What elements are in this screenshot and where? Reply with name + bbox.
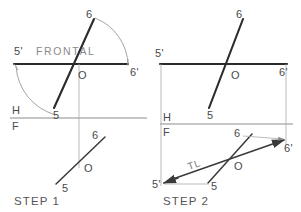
drawing-canvas: FRONTAL 5' 6' 6 5 O H F 6 O 5 STEP 1 <box>0 0 301 212</box>
step-1-caption: STEP 1 <box>14 195 60 207</box>
label-5-frontal-step1: 5 <box>62 182 69 194</box>
technical-drawing-svg: FRONTAL 5' 6' 6 5 O H F 6 O 5 STEP 1 <box>0 0 301 212</box>
label-5prime-frontal-step2: 5' <box>152 178 161 190</box>
step-2-caption: STEP 2 <box>163 195 209 207</box>
label-6-frontal-step1: 6 <box>92 129 99 141</box>
label-O-horizontal-step2: O <box>231 69 240 81</box>
label-6-frontal-step2: 6 <box>234 127 241 139</box>
label-5prime-step2: 5' <box>155 47 164 59</box>
label-O-frontal-step2: O <box>234 160 243 172</box>
step-1-group: FRONTAL 5' 6' 6 5 O H F 6 O 5 STEP 1 <box>10 8 147 207</box>
label-5prime-step1: 5' <box>14 45 23 57</box>
rotation-arc-5-step1 <box>16 66 56 115</box>
label-6prime-top-step2: 6' <box>279 66 288 78</box>
label-6prime-frontal-step2: 6' <box>284 142 293 154</box>
label-6prime-step1: 6' <box>130 66 139 78</box>
line-5-6-frontal-view-step1 <box>56 137 105 184</box>
label-5-frontal-step2: 5 <box>211 180 218 192</box>
label-O-horizontal-step1: O <box>78 69 87 81</box>
label-O-frontal-step1: O <box>84 162 93 174</box>
label-H-step1: H <box>12 104 20 116</box>
label-F-step2: F <box>163 126 170 138</box>
label-F-step1: F <box>12 120 19 132</box>
true-length-arrow-left-step2 <box>164 178 178 183</box>
label-6-top-step2: 6 <box>236 8 243 20</box>
label-5-horizontal-step1: 5 <box>53 109 60 121</box>
step-2-group: 5' 6' 6 5 O H F 6 6' O 5 5' TL STEP 2 <box>152 8 293 207</box>
label-6-top-step1: 6 <box>86 8 93 20</box>
true-length-line-step2 <box>170 140 284 180</box>
frontal-plane-label-step1: FRONTAL <box>36 45 95 57</box>
rotation-arc-6-step1 <box>95 18 128 65</box>
label-H-step2: H <box>163 111 171 123</box>
label-5-horizontal-step2: 5 <box>207 109 214 121</box>
